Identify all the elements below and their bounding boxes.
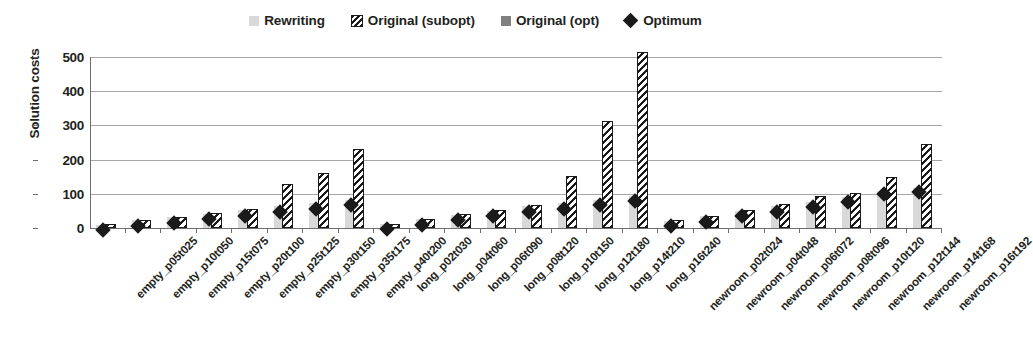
y-tick-mark [33, 57, 38, 58]
bar-group[interactable] [268, 57, 304, 228]
bar-group[interactable] [445, 57, 481, 228]
bar-group[interactable] [410, 57, 446, 228]
bar-group[interactable] [374, 57, 410, 228]
y-tick-mark [33, 194, 38, 195]
x-tick-label: empty_p15t075 [204, 234, 271, 301]
legend-item-label: Rewriting [264, 13, 325, 28]
bar-original-subopt[interactable] [602, 121, 613, 228]
bar-group[interactable] [339, 57, 375, 228]
y-tick-label: 300 [38, 118, 84, 133]
bar-group[interactable] [90, 57, 126, 228]
x-tick-label: empty_p35t175 [346, 234, 413, 301]
bar-group[interactable] [765, 57, 801, 228]
x-tick-label: empty_p25t125 [275, 234, 342, 301]
bar-original-subopt[interactable] [815, 196, 826, 228]
bar-original-subopt[interactable] [282, 184, 293, 228]
y-tick-label: 0 [38, 221, 84, 236]
y-axis-ticks: 5004003002001000 [38, 57, 84, 228]
bar-group[interactable] [587, 57, 623, 228]
bar-groups [90, 57, 942, 228]
bar-group[interactable] [800, 57, 836, 228]
bar-original-subopt[interactable] [318, 173, 329, 228]
bar-group[interactable] [481, 57, 517, 228]
bar-group[interactable] [658, 57, 694, 228]
bar-group[interactable] [729, 57, 765, 228]
legend-swatch-rewriting [249, 16, 259, 26]
legend-marker-optimum-diamond [623, 13, 639, 29]
x-axis-labels: empty_p05t025empty_p10t050empty_p15t075e… [90, 231, 942, 351]
bar-group[interactable] [161, 57, 197, 228]
x-axis-line [90, 228, 942, 229]
bar-original-subopt[interactable] [566, 176, 577, 228]
bar-original-subopt[interactable] [886, 177, 897, 228]
bar-group[interactable] [836, 57, 872, 228]
legend-item-label: Optimum [643, 13, 702, 28]
plot-area: 5004003002001000 [90, 57, 942, 228]
bar-group[interactable] [126, 57, 162, 228]
bar-group[interactable] [197, 57, 233, 228]
bar-original-subopt[interactable] [353, 149, 364, 228]
bar-group[interactable] [303, 57, 339, 228]
y-tick-mark [33, 125, 38, 126]
bar-group[interactable] [232, 57, 268, 228]
y-tick-label: 400 [38, 84, 84, 99]
bar-group[interactable] [623, 57, 659, 228]
x-tick-label: empty_p05t025 [133, 234, 200, 301]
legend-item[interactable]: Optimum [625, 13, 702, 28]
y-tick-mark [33, 228, 38, 229]
bar-group[interactable] [552, 57, 588, 228]
y-tick-mark [33, 160, 38, 161]
legend-swatch-original-opt [501, 16, 511, 26]
bar-group[interactable] [516, 57, 552, 228]
bar-group[interactable] [871, 57, 907, 228]
legend-item-label: Original (subopt) [368, 13, 475, 28]
bar-group[interactable] [907, 57, 943, 228]
bar-original-subopt[interactable] [921, 144, 932, 228]
legend-item[interactable]: Original (opt) [501, 13, 599, 28]
y-tick-mark [33, 91, 38, 92]
legend-swatch-original-subopt [351, 15, 363, 27]
legend-item[interactable]: Original (subopt) [351, 13, 475, 28]
y-tick-label: 200 [38, 152, 84, 167]
legend-item-label: Original (opt) [516, 13, 599, 28]
bar-group[interactable] [694, 57, 730, 228]
y-tick-label: 500 [38, 50, 84, 65]
legend-item[interactable]: Rewriting [249, 13, 325, 28]
chart-legend: RewritingOriginal (subopt)Original (opt)… [0, 13, 951, 28]
y-tick-label: 100 [38, 186, 84, 201]
